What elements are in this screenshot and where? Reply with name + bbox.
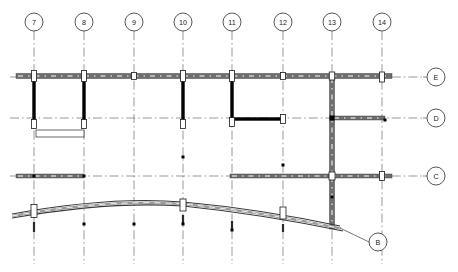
- pin-stub-group: [34, 215, 283, 232]
- column-14-C: [380, 172, 385, 181]
- node-10-mid: [182, 156, 185, 159]
- column-14-E: [380, 72, 385, 82]
- grid-leader-B: [340, 228, 369, 242]
- node-13-mid: [331, 196, 334, 199]
- column-8-E: [82, 71, 87, 82]
- grid-bubble-10[interactable]: 10: [174, 13, 192, 31]
- column-8-D: [82, 120, 87, 129]
- column-12-D: [281, 115, 286, 124]
- grid-bubble-13-label: 13: [328, 18, 336, 27]
- grid-bubble-D-label: D: [433, 114, 438, 123]
- grid-bubble-E-label: E: [434, 73, 439, 82]
- grid-bubble-12-label: 12: [279, 18, 287, 27]
- beam-row-C-left: [16, 174, 84, 178]
- grid-bubble-8[interactable]: 8: [75, 13, 93, 31]
- grid-bubble-13[interactable]: 13: [323, 13, 341, 31]
- wall-grid-10: [181, 78, 184, 125]
- column-11-E: [230, 71, 235, 82]
- column-10-D: [181, 120, 186, 129]
- column-11-D: [230, 118, 235, 127]
- grid-bubble-14[interactable]: 14: [373, 13, 391, 31]
- structural-plan-svg: 7891011121314EDCB: [0, 0, 458, 272]
- node-8-C: [83, 175, 86, 178]
- column-12-B: [280, 207, 286, 219]
- wall-11-to-12-spur: [231, 117, 284, 120]
- grid-bubble-C-label: C: [433, 172, 438, 181]
- grid-bubble-9-label: 9: [132, 18, 136, 27]
- grid-bubble-14-label: 14: [378, 18, 386, 27]
- grid-bubble-E[interactable]: E: [427, 68, 445, 86]
- grid-bubble-8-label: 8: [82, 18, 86, 27]
- column-10-E: [181, 71, 186, 82]
- node-9-arch: [133, 223, 136, 226]
- grid-bubble-9[interactable]: 9: [125, 13, 143, 31]
- node-12-mid: [282, 164, 285, 167]
- row-gridlines: [10, 77, 423, 176]
- grid-bubble-D[interactable]: D: [427, 109, 445, 127]
- grid-bubble-10-label: 10: [179, 18, 187, 27]
- node-7-C: [33, 175, 36, 178]
- node-14-D: [384, 119, 387, 122]
- column-7-E: [32, 71, 37, 82]
- node-10-arch: [182, 223, 185, 226]
- drawing-canvas: 7891011121314EDCB: [0, 0, 458, 272]
- column-7-D: [32, 120, 37, 129]
- grid-bubble-B[interactable]: B: [369, 233, 387, 251]
- column-7-B: [31, 205, 37, 218]
- column-10-B: [180, 199, 186, 211]
- opening-7-to-8: [36, 130, 84, 137]
- wall-grid-11: [230, 78, 233, 120]
- grid-bubble-12[interactable]: 12: [274, 13, 292, 31]
- node-8-arch: [83, 223, 86, 226]
- grid-bubble-11[interactable]: 11: [223, 13, 241, 31]
- grid-bubble-7[interactable]: 7: [25, 13, 43, 31]
- curved-roof-beam-body: [12, 201, 343, 232]
- wall-grid-7: [32, 78, 35, 125]
- node-13-D: [330, 116, 335, 121]
- column-9-E: [132, 73, 137, 80]
- grid-bubble-C[interactable]: C: [427, 167, 445, 185]
- opening-group: [36, 130, 84, 137]
- arch-group: [12, 201, 343, 232]
- grid-bubble-7-label: 7: [32, 18, 36, 27]
- column-12-E: [281, 73, 286, 80]
- solid-wall-group: [32, 78, 284, 125]
- grid-bubble-11-label: 11: [228, 18, 235, 27]
- grid-bubble-B-label: B: [376, 238, 381, 247]
- column-13-E: [329, 72, 335, 80]
- column-13-C: [329, 172, 335, 180]
- node-11-arch: [231, 229, 234, 232]
- wall-grid-8: [82, 78, 85, 125]
